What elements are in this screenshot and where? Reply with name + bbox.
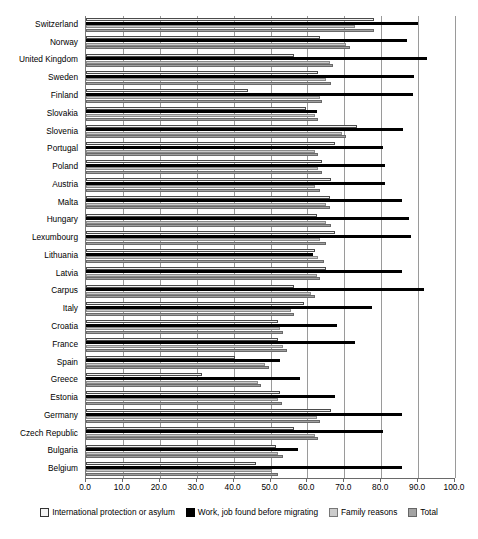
bar-sweden-series-0 [86, 71, 318, 74]
y-axis-label-estonia: Estonia [50, 393, 78, 402]
bar-group [86, 283, 455, 301]
bar-united-kingdom-series-1 [86, 57, 427, 60]
bar-poland-series-3 [86, 171, 322, 174]
bar-carpus-series-0 [86, 285, 294, 288]
y-axis-label-austria: Austria [52, 180, 78, 189]
bar-slovakia-series-2 [86, 114, 315, 117]
y-axis-label-portugal: Portugal [47, 144, 78, 153]
bar-finland-series-3 [86, 100, 322, 103]
bar-hungary-series-3 [86, 224, 331, 227]
y-axis-label-croatia: Croatia [51, 322, 78, 331]
x-tick-80.0 [380, 478, 381, 482]
bar-group [86, 318, 455, 336]
bar-czech-republic-series-3 [86, 437, 318, 440]
y-axis-label-poland: Poland [52, 162, 78, 171]
bar-bulgaria-series-2 [86, 452, 278, 455]
bar-finland-series-1 [86, 93, 413, 96]
bar-switzerland-series-3 [86, 29, 374, 32]
legend-label: Work, job found before migrating [198, 507, 318, 517]
bar-croatia-series-3 [86, 331, 283, 334]
legend-item-0[interactable]: International protection or asylum [40, 507, 175, 517]
y-axis-label-germany: Germany [44, 411, 78, 420]
plot-right-axis [455, 16, 456, 478]
x-axis-label-40.0: 40.0 [213, 482, 253, 492]
x-tick-70.0 [343, 478, 344, 482]
bar-lithuania-series-0 [86, 249, 315, 252]
bar-portugal-series-0 [86, 142, 335, 145]
legend-item-3[interactable]: Total [408, 507, 438, 517]
x-tick-100.0 [454, 478, 455, 482]
x-axis-label-20.0: 20.0 [139, 482, 179, 492]
bar-austria-series-3 [86, 189, 320, 192]
bar-carpus-series-1 [86, 288, 424, 291]
bar-group [86, 34, 455, 52]
bar-spain-series-2 [86, 363, 265, 366]
bar-croatia-series-1 [86, 324, 337, 327]
bar-slovakia-series-1 [86, 110, 317, 113]
y-axis-label-slovakia: Slovakia [47, 109, 78, 118]
bar-malta-series-1 [86, 199, 402, 202]
y-axis-label-france: France [52, 340, 78, 349]
bar-latvia-series-3 [86, 277, 320, 280]
bar-group [86, 123, 455, 141]
bar-malta-series-2 [86, 203, 326, 206]
bar-group [86, 158, 455, 176]
bar-group [86, 407, 455, 425]
bar-greece-series-2 [86, 381, 258, 384]
bar-slovakia-series-3 [86, 118, 318, 121]
bar-slovenia-series-2 [86, 132, 342, 135]
x-tick-30.0 [196, 478, 197, 482]
bar-france-series-1 [86, 341, 355, 344]
bar-germany-series-3 [86, 420, 320, 423]
bar-estonia-series-3 [86, 402, 282, 405]
y-axis-label-belgium: Belgium [48, 464, 78, 473]
bar-norway-series-1 [86, 39, 407, 42]
bar-austria-series-2 [86, 185, 315, 188]
bar-group [86, 371, 455, 389]
legend-item-1[interactable]: Work, job found before migrating [186, 507, 318, 517]
bar-group [86, 140, 455, 158]
bar-group [86, 336, 455, 354]
bar-group [86, 460, 455, 478]
bar-italy-series-0 [86, 302, 304, 305]
bar-switzerland-series-0 [86, 18, 374, 21]
x-tick-20.0 [159, 478, 160, 482]
y-axis-label-latvia: Latvia [56, 269, 78, 278]
y-axis-labels: SwitzerlandNorwayUnited KingdomSwedenFin… [0, 16, 82, 478]
x-axis-labels: 0.010.020.030.040.050.060.070.080.090.01… [0, 482, 478, 496]
bar-finland-series-2 [86, 96, 320, 99]
y-axis-label-italy: Italy [63, 304, 78, 313]
bar-germany-series-2 [86, 416, 317, 419]
bar-group [86, 211, 455, 229]
x-tick-10.0 [122, 478, 123, 482]
bar-group [86, 52, 455, 70]
bar-germany-series-1 [86, 413, 402, 416]
bar-latvia-series-2 [86, 274, 317, 277]
x-axis-label-0.0: 0.0 [65, 482, 105, 492]
x-axis-label-30.0: 30.0 [176, 482, 216, 492]
bar-spain-series-3 [86, 366, 269, 369]
chart-legend: International protection or asylumWork, … [0, 504, 478, 520]
bar-spain-series-0 [86, 356, 235, 359]
bar-croatia-series-0 [86, 320, 278, 323]
bar-croatia-series-2 [86, 327, 280, 330]
bar-italy-series-1 [86, 306, 372, 309]
bar-sweden-series-2 [86, 78, 326, 81]
bar-switzerland-series-2 [86, 25, 355, 28]
bar-estonia-series-0 [86, 391, 280, 394]
bar-group [86, 229, 455, 247]
bar-lexumbourg-series-0 [86, 231, 335, 234]
bar-slovenia-series-0 [86, 125, 357, 128]
y-axis-label-united-kingdom: United Kingdom [19, 55, 78, 64]
bar-switzerland-series-1 [86, 22, 418, 25]
y-axis-label-lithuania: Lithuania [44, 251, 78, 260]
swatch-international-protection-icon [40, 508, 49, 517]
bar-group [86, 16, 455, 34]
legend-item-2[interactable]: Family reasons [329, 507, 397, 517]
y-axis-label-bulgaria: Bulgaria [48, 446, 78, 455]
x-axis-line [86, 478, 455, 479]
bar-group [86, 176, 455, 194]
bar-united-kingdom-series-3 [86, 64, 333, 67]
bar-slovenia-series-1 [86, 128, 403, 131]
bar-finland-series-0 [86, 89, 248, 92]
